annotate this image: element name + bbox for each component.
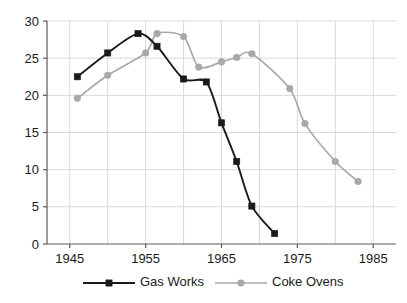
data-point-marker bbox=[355, 178, 362, 185]
data-point-marker bbox=[104, 72, 111, 79]
data-point-marker bbox=[74, 74, 80, 80]
chart-container: 051015202530 19451955196519751985 Gas Wo… bbox=[0, 0, 407, 303]
data-point-marker bbox=[180, 33, 187, 40]
legend-marker bbox=[106, 280, 112, 286]
data-point-marker bbox=[272, 230, 278, 236]
x-axis-tick-label: 1965 bbox=[207, 251, 236, 266]
data-point-marker bbox=[302, 120, 309, 127]
data-point-marker bbox=[135, 31, 141, 37]
y-axis-tick-label: 10 bbox=[25, 162, 39, 177]
line-chart: 051015202530 19451955196519751985 Gas Wo… bbox=[0, 0, 407, 303]
legend-marker bbox=[238, 280, 245, 287]
y-axis-tick-label: 30 bbox=[25, 14, 39, 29]
x-axis-tick-label: 1945 bbox=[55, 251, 84, 266]
y-axis-tick-label: 15 bbox=[25, 125, 39, 140]
data-point-marker bbox=[234, 158, 240, 164]
data-point-marker bbox=[195, 64, 202, 71]
data-point-marker bbox=[105, 50, 111, 56]
x-axis-tick-label: 1955 bbox=[131, 251, 160, 266]
data-point-marker bbox=[180, 76, 186, 82]
data-point-marker bbox=[142, 50, 149, 57]
y-axis-tick-label: 20 bbox=[25, 88, 39, 103]
data-point-marker bbox=[74, 95, 81, 102]
legend-label: Coke Ovens bbox=[272, 274, 344, 289]
data-point-marker bbox=[154, 30, 161, 37]
x-axis-tick-label: 1985 bbox=[359, 251, 388, 266]
legend-label: Gas Works bbox=[140, 274, 205, 289]
data-point-marker bbox=[218, 120, 224, 126]
data-point-marker bbox=[233, 54, 240, 61]
y-axis-tick-label: 0 bbox=[32, 237, 39, 252]
data-point-marker bbox=[154, 43, 160, 49]
data-point-marker bbox=[286, 85, 293, 92]
y-axis-tick-label: 25 bbox=[25, 51, 39, 66]
data-point-marker bbox=[218, 59, 225, 66]
data-point-marker bbox=[203, 79, 209, 85]
data-point-marker bbox=[332, 158, 339, 165]
y-axis-tick-label: 5 bbox=[32, 199, 39, 214]
data-point-marker bbox=[249, 203, 255, 209]
x-axis-tick-label: 1975 bbox=[283, 251, 312, 266]
data-point-marker bbox=[249, 50, 256, 57]
